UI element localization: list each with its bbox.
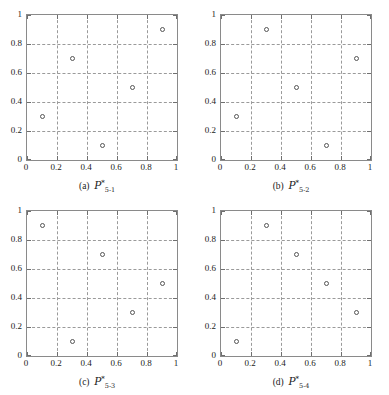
gridline-horizontal — [221, 102, 371, 103]
x-tick-top — [147, 211, 148, 215]
panel-d: (d) P*5-4 00.20.40.60.8100.20.40.60.81 — [194, 196, 388, 393]
y-tick-label: 1 — [194, 205, 216, 216]
data-point — [160, 27, 165, 32]
caption-b: (b) P*5-2 — [194, 176, 388, 196]
y-tick — [27, 327, 31, 328]
gridline-horizontal — [221, 269, 371, 270]
x-tick-top — [311, 211, 312, 215]
data-point — [40, 114, 45, 119]
data-point — [354, 310, 359, 315]
y-tick-right — [367, 355, 371, 356]
y-tick-right — [367, 211, 371, 212]
gridline-horizontal — [221, 44, 371, 45]
x-tick-top — [311, 15, 312, 19]
y-tick-label: 0.6 — [0, 263, 22, 274]
x-tick-label: 0.8 — [334, 162, 345, 173]
x-tick — [147, 156, 148, 160]
gridline-horizontal — [27, 269, 177, 270]
gridline-vertical — [311, 211, 312, 356]
y-tick-label: 0.4 — [0, 96, 22, 107]
y-tick-right — [173, 131, 177, 132]
y-tick — [27, 15, 31, 16]
y-tick-right — [367, 15, 371, 16]
gridline-vertical — [117, 211, 118, 356]
x-tick-label: 0.4 — [80, 162, 91, 173]
caption-index-d: (d) — [273, 377, 284, 387]
y-tick-label: 0.2 — [194, 321, 216, 332]
x-tick-label: 0.6 — [110, 162, 121, 173]
gridline-horizontal — [27, 44, 177, 45]
y-tick — [27, 211, 31, 212]
x-tick-top — [281, 211, 282, 215]
x-tick — [117, 352, 118, 356]
data-point — [100, 252, 105, 257]
y-tick-right — [173, 44, 177, 45]
y-tick — [221, 102, 225, 103]
y-tick — [27, 298, 31, 299]
data-point — [264, 27, 269, 32]
y-tick-label: 0.6 — [194, 263, 216, 274]
x-tick-top — [117, 211, 118, 215]
x-tick-label: 1 — [174, 358, 179, 369]
x-tick-top — [57, 15, 58, 19]
x-tick-top — [87, 211, 88, 215]
y-tick — [221, 269, 225, 270]
data-point — [130, 85, 135, 90]
x-tick — [57, 156, 58, 160]
data-point — [234, 339, 239, 344]
y-tick-label: 0.6 — [194, 67, 216, 78]
y-tick-right — [367, 298, 371, 299]
y-tick-label: 0 — [0, 154, 22, 165]
data-point — [70, 339, 75, 344]
gridline-horizontal — [27, 73, 177, 74]
y-tick — [221, 298, 225, 299]
caption-symbol-b: P*5-2 — [289, 179, 310, 191]
x-tick-label: 0 — [218, 162, 223, 173]
y-tick-right — [367, 102, 371, 103]
gridline-vertical — [251, 211, 252, 356]
gridline-vertical — [281, 211, 282, 356]
x-tick-top — [341, 211, 342, 215]
x-tick-top — [87, 15, 88, 19]
y-tick-label: 1 — [0, 205, 22, 216]
y-tick-right — [367, 240, 371, 241]
data-point — [160, 281, 165, 286]
y-tick-right — [173, 355, 177, 356]
y-tick — [221, 73, 225, 74]
caption-symbol-a: P*5-1 — [94, 179, 115, 191]
y-tick-label: 0.4 — [194, 292, 216, 303]
gridline-horizontal — [221, 240, 371, 241]
y-tick-label: 1 — [0, 9, 22, 20]
x-tick-label: 0.8 — [140, 162, 151, 173]
y-tick — [27, 159, 31, 160]
gridline-vertical — [147, 15, 148, 160]
y-tick-label: 0.2 — [0, 125, 22, 136]
y-tick — [221, 15, 225, 16]
y-tick — [221, 327, 225, 328]
y-tick-right — [367, 159, 371, 160]
x-tick-label: 1 — [368, 358, 373, 369]
y-tick-right — [173, 73, 177, 74]
y-tick-right — [173, 159, 177, 160]
figure-scatter-grid: (a) P*5-1 00.20.40.60.8100.20.40.60.81 (… — [0, 0, 389, 395]
y-tick — [27, 269, 31, 270]
y-tick-label: 0 — [0, 350, 22, 361]
y-tick-right — [367, 44, 371, 45]
panel-a: (a) P*5-1 00.20.40.60.8100.20.40.60.81 — [0, 0, 194, 197]
y-tick — [27, 240, 31, 241]
y-tick — [221, 211, 225, 212]
gridline-horizontal — [27, 298, 177, 299]
x-tick-label: 0.2 — [244, 358, 255, 369]
x-tick — [87, 156, 88, 160]
x-tick-top — [147, 15, 148, 19]
y-tick-right — [367, 327, 371, 328]
gridline-horizontal — [27, 131, 177, 132]
y-tick-right — [173, 298, 177, 299]
data-point — [324, 281, 329, 286]
y-tick-label: 0.2 — [194, 125, 216, 136]
x-tick-label: 0.2 — [50, 162, 61, 173]
x-tick — [341, 352, 342, 356]
y-tick-right — [367, 269, 371, 270]
gridline-horizontal — [27, 327, 177, 328]
y-tick-label: 0.8 — [0, 234, 22, 245]
